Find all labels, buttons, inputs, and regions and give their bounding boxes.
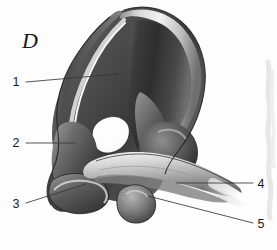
label-1: 1 — [13, 75, 20, 89]
label-3: 3 — [13, 197, 20, 211]
label-4: 4 — [258, 177, 265, 191]
label-5: 5 — [258, 217, 265, 231]
label-2: 2 — [13, 136, 20, 150]
panel-letter: D — [21, 28, 38, 53]
anatomical-illustration: D 1 2 3 4 5 — [0, 0, 277, 250]
figure-container: D 1 2 3 4 5 — [0, 0, 277, 250]
scan-edge-artifact — [268, 62, 274, 218]
